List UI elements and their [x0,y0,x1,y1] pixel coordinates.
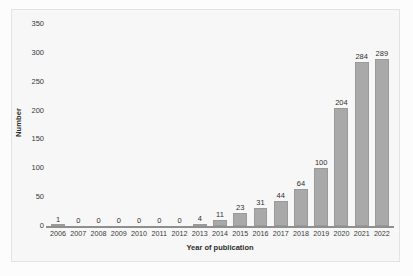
y-tick-350: 350 [18,20,44,28]
bar-slot-2022: 289 [372,24,392,226]
y-tick-300: 300 [18,49,44,57]
x-tick-2022: 2022 [368,229,396,238]
bar-slot-2019: 100 [311,24,331,226]
y-axis-title: Number [14,93,23,153]
bar-slot-2013: 4 [190,24,210,226]
bar-2020[interactable] [334,108,348,226]
bar-slot-2010: 0 [129,24,149,226]
bars-container: 100000041123314464100204284289 [48,24,392,226]
bar-slot-2011: 0 [149,24,169,226]
bar-2021[interactable] [355,62,369,226]
chart-figure: Number 050100150200250300350 10000004112… [0,0,413,276]
y-tick-150: 150 [18,135,44,143]
bar-slot-2008: 0 [88,24,108,226]
bar-2014[interactable] [213,220,227,226]
bar-2019[interactable] [314,168,328,226]
bar-slot-2012: 0 [169,24,189,226]
bar-slot-2015: 23 [230,24,250,226]
y-tick-50: 50 [18,193,44,201]
y-tick-250: 250 [18,78,44,86]
bar-value-label-2022: 289 [368,50,396,58]
bar-2018[interactable] [294,189,308,226]
x-axis-title: Year of publication [48,243,392,252]
bar-slot-2018: 64 [291,24,311,226]
y-tick-200: 200 [18,107,44,115]
y-tick-100: 100 [18,164,44,172]
bar-slot-2017: 44 [271,24,291,226]
bar-2022[interactable] [375,59,389,226]
bar-2017[interactable] [274,201,288,226]
bar-slot-2009: 0 [109,24,129,226]
y-tick-0: 0 [18,222,44,230]
x-axis-line [46,226,394,228]
bar-slot-2006: 1 [48,24,68,226]
bar-2013[interactable] [193,224,207,226]
bar-slot-2014: 11 [210,24,230,226]
bar-2015[interactable] [233,213,247,226]
bar-2016[interactable] [254,208,268,226]
bar-slot-2007: 0 [68,24,88,226]
